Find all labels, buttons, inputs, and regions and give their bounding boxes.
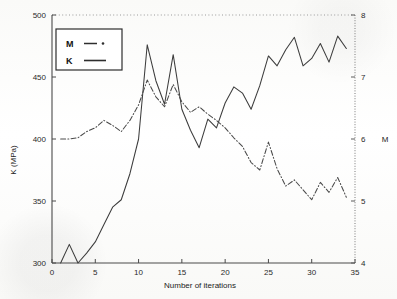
- x-tick-label: 25: [264, 268, 273, 277]
- y2-tick-label: 8: [361, 11, 366, 20]
- right-axis-tick-labels: 45678: [361, 11, 366, 268]
- right-axis-ticks: [351, 15, 355, 263]
- y-tick-label: 350: [33, 197, 47, 206]
- x-tick-label: 0: [50, 268, 55, 277]
- y2-tick-label: 5: [361, 197, 366, 206]
- x-tick-label: 15: [177, 268, 186, 277]
- legend-label-m: M: [66, 39, 74, 49]
- x-tick-label: 5: [93, 268, 98, 277]
- legend-label-k: K: [66, 56, 73, 66]
- x-tick-label: 10: [134, 268, 143, 277]
- series-line-m: [61, 80, 347, 200]
- bottom-axis-ticks: [52, 259, 355, 263]
- y-tick-label: 400: [33, 135, 47, 144]
- x-tick-label: 35: [351, 268, 360, 277]
- y-tick-label: 450: [33, 73, 47, 82]
- figure-canvas: 300350400450500 05101520253035 45678 Num…: [0, 0, 397, 299]
- chart-plot: 300350400450500 05101520253035 45678 Num…: [0, 0, 397, 299]
- y-tick-label: 500: [33, 11, 47, 20]
- x-tick-label: 30: [307, 268, 316, 277]
- chart-legend[interactable]: M K: [56, 29, 122, 70]
- y-axis-title: K (MPa): [9, 145, 18, 175]
- y2-tick-label: 7: [361, 73, 366, 82]
- y2-tick-label: 4: [361, 259, 366, 268]
- x-tick-label: 20: [221, 268, 230, 277]
- y2-axis-title: M: [382, 135, 389, 144]
- bottom-axis-tick-labels: 05101520253035: [50, 268, 360, 277]
- y-tick-label: 300: [33, 259, 47, 268]
- left-axis-tick-labels: 300350400450500: [33, 11, 47, 268]
- y2-tick-label: 6: [361, 135, 366, 144]
- x-axis-title: Number of iterations: [164, 281, 236, 290]
